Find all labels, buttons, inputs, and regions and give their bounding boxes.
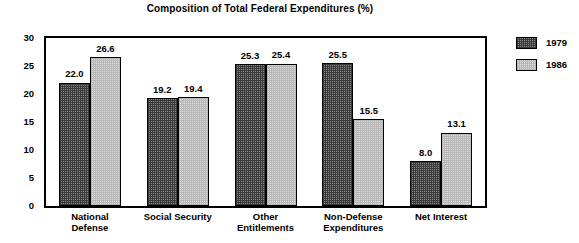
bar-1979-national-defense[interactable]: 22.0 [59, 83, 90, 206]
legend-swatch-1986 [516, 59, 537, 71]
x-axis-label-social-security: Social Security [130, 211, 226, 222]
bar-1986-social-security[interactable]: 19.4 [178, 97, 209, 206]
bar-1986-non-defense-expenditures[interactable]: 15.5 [353, 119, 384, 206]
x-axis-label-line: Expenditures [305, 222, 401, 233]
bar-group: 25.325.4 [235, 38, 297, 206]
bar-value-label: 15.5 [360, 106, 379, 116]
x-axis-category-labels: NationalDefenseSocial SecurityOtherEntit… [46, 211, 485, 241]
bar-value-label: 25.3 [241, 51, 260, 61]
y-axis-tick-label: 15 [23, 117, 34, 127]
x-axis-label-non-defense-expenditures: Non-DefenseExpenditures [305, 211, 401, 233]
x-axis-label-line: National [42, 211, 138, 222]
x-axis-label-line: Entitlements [218, 222, 314, 233]
bar-1986-other-entitlements[interactable]: 25.4 [266, 64, 297, 206]
y-axis-tick-label: 0 [29, 201, 34, 211]
y-axis-tick-label: 25 [23, 61, 34, 71]
plot-area: 22.026.619.219.425.325.425.515.58.013.1 [46, 38, 485, 206]
bar-group: 8.013.1 [410, 38, 472, 206]
bar-value-label: 19.4 [184, 84, 203, 94]
y-axis: 302520151050 [0, 36, 40, 208]
bar-value-label: 13.1 [447, 119, 466, 129]
legend-label-1986: 1986 [546, 59, 567, 71]
x-axis-label-other-entitlements: OtherEntitlements [218, 211, 314, 233]
bar-1986-national-defense[interactable]: 26.6 [90, 57, 121, 206]
legend-swatch-1979 [516, 37, 537, 49]
x-axis-label-line: Social Security [130, 211, 226, 222]
bar-1979-net-interest[interactable]: 8.0 [410, 161, 441, 206]
bar-1986-net-interest[interactable]: 13.1 [441, 133, 472, 206]
y-axis-tick-label: 20 [23, 89, 34, 99]
chart-title: Composition of Total Federal Expenditure… [0, 3, 520, 14]
bar-value-label: 22.0 [65, 69, 84, 79]
bar-value-label: 19.2 [153, 85, 172, 95]
x-axis-label-line: Other [218, 211, 314, 222]
y-axis-tick-label: 5 [29, 173, 34, 183]
bar-group: 25.515.5 [322, 38, 384, 206]
bar-1979-social-security[interactable]: 19.2 [147, 98, 178, 206]
bar-1979-other-entitlements[interactable]: 25.3 [235, 64, 266, 206]
y-axis-tick-label: 10 [23, 145, 34, 155]
x-axis-label-line: Non-Defense [305, 211, 401, 222]
legend-label-1979: 1979 [546, 37, 567, 49]
x-axis-label-line: Defense [42, 222, 138, 233]
bar-1979-non-defense-expenditures[interactable]: 25.5 [322, 63, 353, 206]
x-axis-label-net-interest: Net Interest [393, 211, 489, 222]
bar-value-label: 8.0 [419, 148, 432, 158]
bar-value-label: 25.5 [329, 50, 348, 60]
x-axis-label-line: Net Interest [393, 211, 489, 222]
bar-group: 22.026.6 [59, 38, 121, 206]
bar-value-label: 25.4 [272, 50, 291, 60]
bar-value-label: 26.6 [96, 44, 115, 54]
x-axis-label-national-defense: NationalDefense [42, 211, 138, 233]
bar-group: 19.219.4 [147, 38, 209, 206]
y-axis-tick-label: 30 [23, 33, 34, 43]
